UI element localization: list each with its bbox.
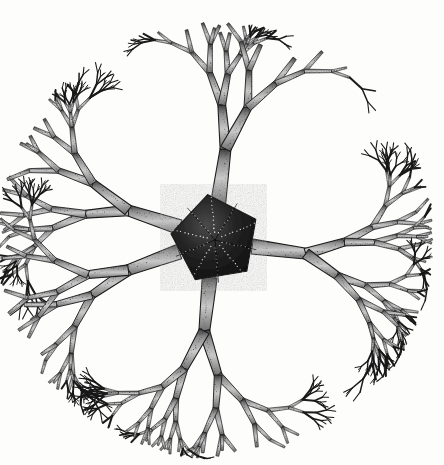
basket-star-figure [0, 0, 444, 465]
illustration-plate [0, 0, 444, 465]
